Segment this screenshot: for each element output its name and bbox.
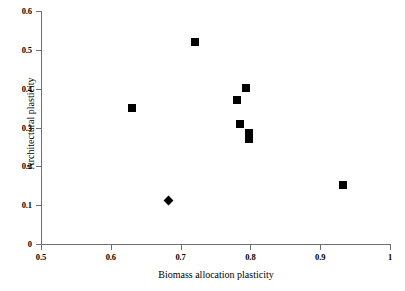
y-axis-title: Architectural plasticity xyxy=(25,34,36,214)
x-axis-tick-label: 0.6 xyxy=(91,253,131,262)
data-point-square xyxy=(233,96,241,104)
y-axis-tick-label: 0 xyxy=(2,240,32,249)
data-point-square xyxy=(128,104,136,112)
data-point-square xyxy=(191,38,199,46)
x-axis-tick xyxy=(250,245,251,250)
y-axis-tick-label: 0.6 xyxy=(2,7,32,16)
x-axis-tick xyxy=(41,245,42,250)
data-point-square xyxy=(242,84,250,92)
x-axis-tick xyxy=(320,245,321,250)
x-axis-tick xyxy=(111,245,112,250)
x-axis-tick-label: 0.7 xyxy=(161,253,201,262)
x-axis-tick xyxy=(181,245,182,250)
x-axis-tick-label: 0.8 xyxy=(230,253,270,262)
plot-area xyxy=(41,11,390,244)
scatter-chart: 00.10.20.30.40.50.6 0.50.60.70.80.91 Bio… xyxy=(0,0,405,291)
x-axis-tick-label: 0.5 xyxy=(21,253,61,262)
x-axis-line xyxy=(41,244,391,245)
data-point-square xyxy=(245,135,253,143)
x-axis-title: Biomass allocation plasticity xyxy=(41,269,391,280)
data-point-square xyxy=(236,120,244,128)
x-axis-tick-label: 1 xyxy=(370,253,405,262)
data-point-square xyxy=(339,181,347,189)
x-axis-tick-label: 0.9 xyxy=(300,253,340,262)
x-axis-tick xyxy=(390,245,391,250)
